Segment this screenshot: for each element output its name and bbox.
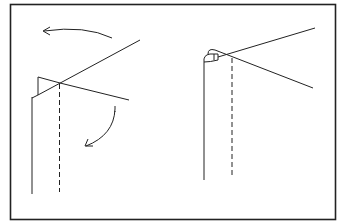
diagonal-fold-line [38,40,140,95]
curl-loop-icon [204,50,218,63]
step-1-panel [32,27,140,194]
flap-outline [38,77,129,100]
step-2-panel [204,28,315,180]
lower-crossing-line [215,50,313,88]
upper-crossing-line [218,28,315,57]
fold-back-arrow-icon [44,29,112,38]
fold-down-arrow-icon [86,109,115,146]
folding-diagram [0,0,337,224]
flap-lower-edge [32,95,38,98]
